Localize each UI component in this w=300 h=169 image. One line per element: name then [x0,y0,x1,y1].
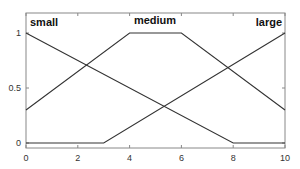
x-tick-label: 8 [231,153,236,163]
x-tick-label: 0 [23,153,28,163]
x-tick-label: 2 [75,153,80,163]
y-tick-label: 1 [16,28,21,38]
x-tick-label: 4 [127,153,132,163]
label-small: small [30,16,58,28]
membership-function-chart: 024681000.51 smallmediumlarge [0,0,300,169]
label-large: large [256,16,282,28]
label-medium: medium [134,14,176,26]
y-tick-label: 0 [16,138,21,148]
x-tick-label: 10 [280,153,290,163]
y-tick-label: 0.5 [8,83,21,93]
x-tick-label: 6 [179,153,184,163]
